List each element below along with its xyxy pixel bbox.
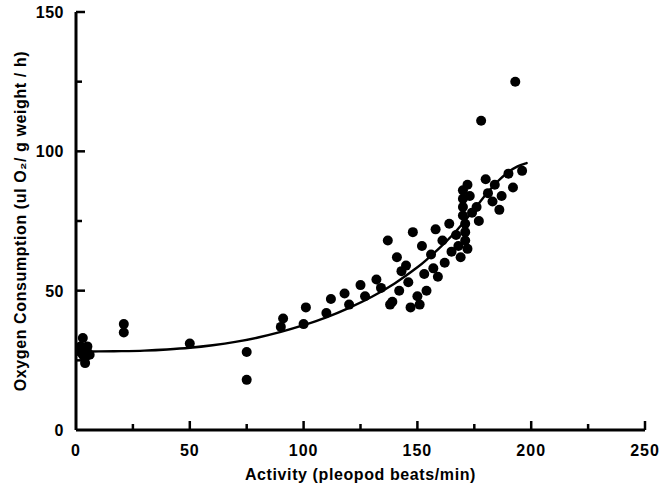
data-point xyxy=(387,297,397,307)
data-point xyxy=(456,252,466,262)
data-point xyxy=(462,180,472,190)
data-point xyxy=(437,236,447,246)
data-point xyxy=(419,269,429,279)
data-point xyxy=(444,219,454,229)
data-point xyxy=(462,244,472,254)
y-axis-title: Oxygen Consumption (ul O₂/ g weight / h) xyxy=(12,51,29,391)
x-tick-label: 50 xyxy=(180,442,200,459)
x-tick-label: 250 xyxy=(630,442,660,459)
data-point xyxy=(321,308,331,318)
scatter-plot-figure: 050100150200250050100150Activity (pleopo… xyxy=(0,0,670,492)
y-tick-label: 0 xyxy=(55,422,64,439)
data-point xyxy=(401,261,411,271)
data-point xyxy=(344,300,354,310)
x-axis-title: Activity (pleopod beats/min) xyxy=(245,466,476,483)
data-point xyxy=(433,272,443,282)
data-point xyxy=(376,283,386,293)
data-point xyxy=(460,236,470,246)
data-point xyxy=(431,224,441,234)
data-point xyxy=(392,252,402,262)
data-point xyxy=(301,302,311,312)
data-point xyxy=(494,205,504,215)
data-point xyxy=(472,202,482,212)
data-point xyxy=(119,327,129,337)
data-point xyxy=(503,169,513,179)
x-tick-label: 200 xyxy=(516,442,546,459)
data-point xyxy=(517,166,527,176)
data-point xyxy=(242,347,252,357)
data-point xyxy=(403,277,413,287)
data-point xyxy=(412,291,422,301)
y-tick-label: 100 xyxy=(36,143,64,160)
data-point xyxy=(278,314,288,324)
data-point xyxy=(474,216,484,226)
data-point xyxy=(510,77,520,87)
data-point xyxy=(476,116,486,126)
data-point xyxy=(508,183,518,193)
data-point xyxy=(82,341,92,351)
data-point xyxy=(276,322,286,332)
data-point xyxy=(458,210,468,220)
data-point xyxy=(185,339,195,349)
data-point xyxy=(394,286,404,296)
y-tick-label: 150 xyxy=(36,4,64,21)
y-tick-label: 50 xyxy=(45,283,64,300)
data-point xyxy=(340,288,350,298)
data-point xyxy=(490,180,500,190)
plot-background xyxy=(0,0,670,492)
data-point xyxy=(415,300,425,310)
data-point xyxy=(326,294,336,304)
data-point xyxy=(426,249,436,259)
x-tick-label: 0 xyxy=(71,442,81,459)
data-point xyxy=(481,174,491,184)
data-point xyxy=(360,291,370,301)
data-point xyxy=(465,191,475,201)
data-point xyxy=(242,375,252,385)
data-point xyxy=(451,230,461,240)
x-tick-label: 100 xyxy=(289,442,319,459)
data-point xyxy=(406,302,416,312)
data-point xyxy=(383,236,393,246)
data-point xyxy=(85,350,95,360)
data-point xyxy=(356,280,366,290)
data-point xyxy=(408,227,418,237)
data-point xyxy=(299,319,309,329)
data-point xyxy=(417,241,427,251)
data-point xyxy=(440,258,450,268)
x-tick-label: 150 xyxy=(403,442,433,459)
data-point xyxy=(422,286,432,296)
data-point xyxy=(488,196,498,206)
data-point xyxy=(497,191,507,201)
chart-canvas: 050100150200250050100150Activity (pleopo… xyxy=(0,0,670,492)
